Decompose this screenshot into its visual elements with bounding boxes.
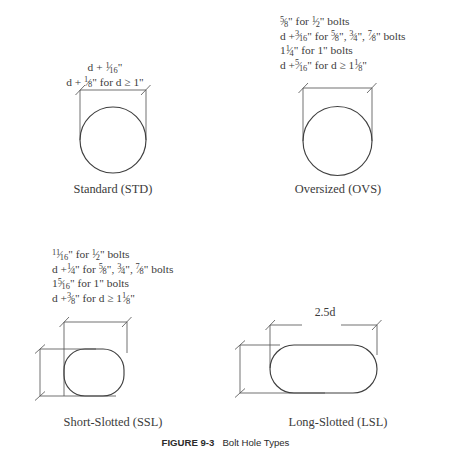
panel-oversized: 5⁄8" for 1⁄2" bolts d +3⁄16" for 5⁄8", 3… xyxy=(225,0,451,232)
std-caption: Standard (STD) xyxy=(0,182,226,197)
ovs-drawing xyxy=(225,0,451,232)
figure-number: FIGURE 9-3 xyxy=(162,437,215,448)
ssl-drawing xyxy=(0,233,226,433)
ssl-caption: Short-Slotted (SSL) xyxy=(0,415,226,430)
figure-title: Bolt Hole Types xyxy=(222,437,289,448)
std-drawing xyxy=(0,0,226,232)
lsl-horizontal-dimension: 2.5d xyxy=(280,305,370,320)
ovs-caption: Oversized (OVS) xyxy=(225,182,451,197)
figure-caption: FIGURE 9-3 Bolt Hole Types xyxy=(0,437,451,448)
figure-bolt-hole-types: d + 1⁄16" d + 1⁄8" for d ≥ 1" Standard (… xyxy=(0,0,451,465)
panel-short-slotted: 11⁄16" for 1⁄2" bolts d +1⁄4" for 5⁄8", … xyxy=(0,233,226,433)
lsl-drawing xyxy=(225,233,451,433)
figure-title-spacer xyxy=(217,437,220,448)
panel-long-slotted: 2.5d d + 1⁄16" Long-Slotted (LSL) xyxy=(225,233,451,433)
lsl-caption: Long-Slotted (LSL) xyxy=(225,415,451,430)
panel-standard: d + 1⁄16" d + 1⁄8" for d ≥ 1" Standard (… xyxy=(0,0,226,232)
